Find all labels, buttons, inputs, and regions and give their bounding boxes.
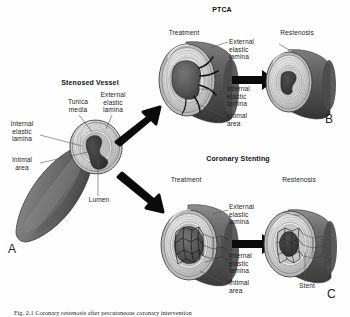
label-a-external-elastic-lamina: External elastic lamina: [96, 91, 130, 114]
panel-b-title: PTCA: [192, 6, 252, 13]
label-b-stage-treatment: Treatment: [161, 29, 207, 37]
label-b-internal-elastic-lamina: Internal elastic lamina: [227, 85, 267, 108]
panel-letter-b: B: [325, 112, 333, 126]
label-a-tunica-media: Tunica media: [62, 98, 94, 113]
panel-c-treatment-vessel: [161, 205, 239, 286]
figure-caption: Fig. 2.1 Coronary restenosis after percu…: [14, 309, 339, 317]
panel-a-title: Stenosed Vessel: [48, 79, 132, 86]
panel-letter-a: A: [8, 242, 16, 256]
label-c-stage-restenosis: Restenosis: [274, 176, 324, 184]
label-b-intimal-area: Intimal area: [227, 112, 267, 127]
figure-canvas: Stenosed Vessel Tunica media External el…: [0, 0, 350, 317]
arrow-a-to-c: [118, 173, 163, 212]
panel-b-treatment-vessel: [159, 42, 239, 123]
label-c-external-elastic-lamina: External elastic lamina: [229, 203, 269, 226]
label-b-external-elastic-lamina: External elastic lamina: [229, 38, 269, 61]
label-c-stent: Stent: [290, 282, 324, 290]
label-b-stage-restenosis: Restenosis: [272, 29, 322, 37]
panel-c-restenosis-vessel: [264, 210, 337, 283]
label-c-stage-treatment: Treatment: [163, 176, 209, 184]
label-a-intimal-area: Intimal area: [5, 156, 39, 171]
panel-c-title: Coronary Stenting: [192, 155, 284, 162]
figure-artwork: [0, 0, 350, 317]
panel-b-restenosis-vessel: [266, 50, 336, 119]
label-c-intimal-area: Intimal area: [229, 279, 269, 294]
label-c-internal-elastic-lamina: Internal elastic lamina: [229, 252, 269, 275]
label-a-internal-elastic-lamina: Internal elastic lamina: [5, 120, 39, 143]
label-a-lumen: Lumen: [82, 196, 116, 204]
panel-letter-c: C: [327, 287, 336, 301]
